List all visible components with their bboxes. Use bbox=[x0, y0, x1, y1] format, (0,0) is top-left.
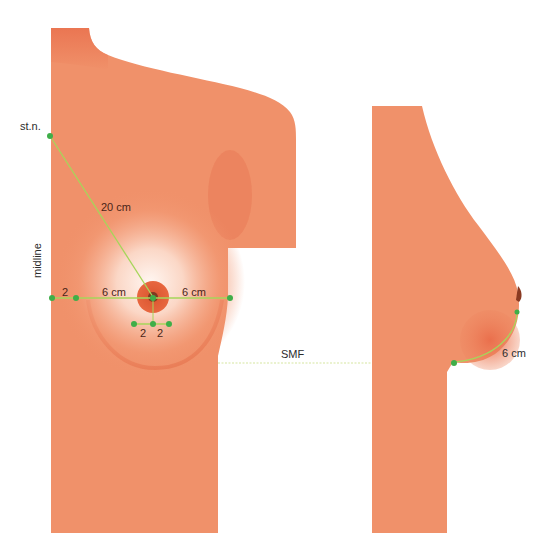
lateral-marker bbox=[227, 295, 233, 301]
areola-right-label: 2 bbox=[157, 327, 163, 339]
sn-to-nipple-label: 20 cm bbox=[101, 201, 131, 213]
midline-marker bbox=[49, 295, 55, 301]
front-view bbox=[51, 28, 296, 533]
areola-right-marker bbox=[166, 321, 172, 327]
nipple-marker bbox=[150, 295, 156, 301]
side-view: 6 cm bbox=[372, 106, 526, 533]
medial-distance-label: 6 cm bbox=[102, 286, 126, 298]
side-breast-shading bbox=[460, 310, 520, 370]
midline-label: midline bbox=[31, 243, 43, 278]
midline-offset-marker bbox=[73, 295, 79, 301]
smf-label: SMF bbox=[281, 348, 305, 360]
lateral-distance-label: 6 cm bbox=[182, 286, 206, 298]
areola-left-marker bbox=[131, 321, 137, 327]
midline-offset-label: 2 bbox=[62, 286, 68, 298]
sternal-notch-marker bbox=[47, 133, 53, 139]
areola-center-marker bbox=[150, 321, 156, 327]
areola-left-label: 2 bbox=[140, 327, 146, 339]
side-imf-marker bbox=[451, 360, 457, 366]
sternal-notch-label: st.n. bbox=[20, 120, 41, 132]
diagram-canvas: st.n. 20 cm midline 2 6 cm 6 cm 2 2 SMF … bbox=[0, 0, 543, 542]
nipple-to-imf-label: 6 cm bbox=[502, 347, 526, 359]
side-nipple-marker bbox=[515, 310, 520, 315]
